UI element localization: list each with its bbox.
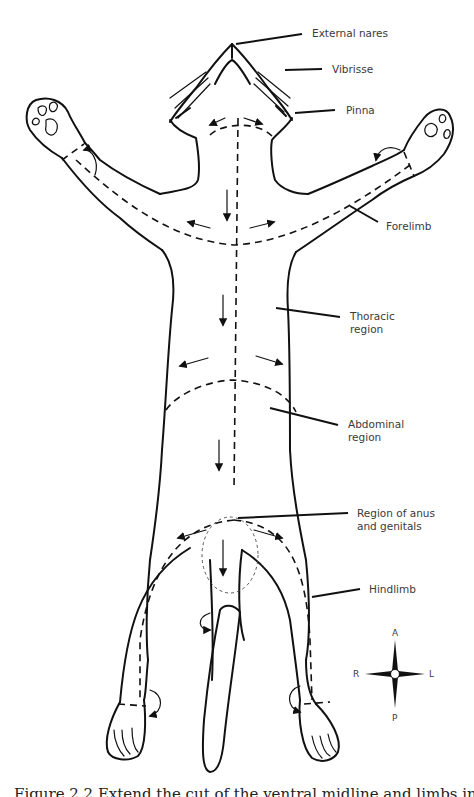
label-pinna: Pinna bbox=[346, 104, 375, 116]
label-vibrisse: Vibrisse bbox=[332, 63, 373, 75]
label-hindlimb: Hindlimb bbox=[369, 583, 416, 595]
label-thoracic-1: Thoracic bbox=[349, 310, 395, 322]
neck-cut bbox=[210, 125, 272, 136]
label-thoracic-2: region bbox=[350, 323, 383, 335]
left-ankle-cut bbox=[118, 704, 146, 706]
orientation-compass: A P R L bbox=[353, 628, 434, 723]
labels: External nares Vibrisse Pinna Forelimb T… bbox=[236, 27, 435, 597]
forelimb-cut bbox=[76, 160, 410, 245]
compass-anterior: A bbox=[392, 628, 399, 638]
right-hindlimb-cut bbox=[234, 520, 312, 700]
left-wrist-cut bbox=[62, 144, 84, 160]
label-external-nares: External nares bbox=[312, 27, 388, 39]
caption-text: Figure 2.2 Extend the cut of the ventral… bbox=[14, 784, 474, 797]
label-forelimb: Forelimb bbox=[386, 220, 432, 232]
compass-left: L bbox=[429, 669, 434, 679]
label-abdominal-1: Abdominal bbox=[348, 418, 404, 430]
cat-body-outline bbox=[27, 44, 453, 772]
abdominal-cut bbox=[166, 380, 296, 412]
compass-posterior: P bbox=[392, 713, 398, 723]
head-detail bbox=[170, 44, 290, 118]
compass-right: R bbox=[353, 669, 359, 679]
label-abdominal-2: region bbox=[348, 431, 381, 443]
label-anus-2: and genitals bbox=[357, 520, 422, 532]
right-ankle-cut bbox=[304, 702, 330, 704]
right-wrist-cut bbox=[404, 152, 414, 176]
ventral-midline-cut bbox=[234, 118, 238, 490]
label-anus-1: Region of anus bbox=[357, 507, 435, 519]
figure-caption: Figure 2.2 Extend the cut of the ventral… bbox=[14, 784, 474, 797]
